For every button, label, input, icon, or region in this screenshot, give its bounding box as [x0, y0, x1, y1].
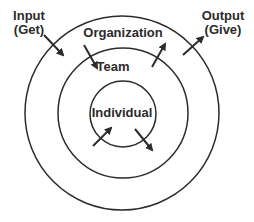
input-label-line1: Input: [13, 9, 45, 23]
output-label-line1: Output: [202, 9, 245, 23]
output-label: Output (Give): [202, 9, 245, 37]
output-label-line2: (Give): [202, 23, 245, 37]
input-label-line2: (Get): [13, 23, 45, 37]
individual-label: Individual: [92, 106, 153, 120]
input-label: Input (Get): [13, 9, 45, 37]
organization-label: Organization: [83, 26, 162, 40]
team-label: Team: [97, 60, 130, 74]
individual-to-team-arrow-icon: [135, 129, 152, 150]
organization-to-team-arrow-icon: [84, 45, 97, 68]
